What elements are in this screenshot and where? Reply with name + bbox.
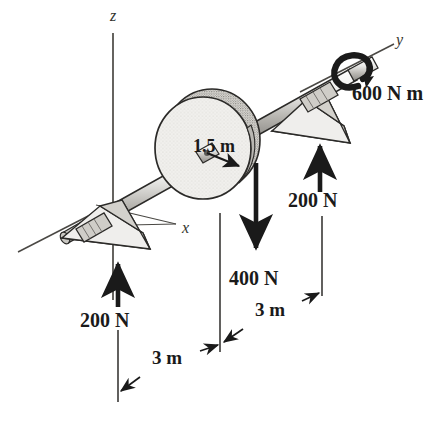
dimension-label-left-3m: 3 m [152, 348, 182, 367]
axis-label-y: y [396, 32, 403, 48]
dimension-label-radius: 1.5 m [193, 137, 235, 155]
force-label-400n: 400 N [229, 268, 278, 288]
bearing-left [62, 200, 150, 249]
figure-canvas [0, 0, 440, 425]
moment-label-600nm: 600 N m [352, 83, 423, 103]
dimension-extension-lines [118, 213, 322, 402]
force-label-right-200n: 200 N [288, 190, 337, 210]
dimension-label-right-3m: 3 m [255, 300, 285, 319]
force-label-left-200n: 200 N [80, 310, 129, 330]
axis-label-z: z [110, 8, 116, 24]
axis-label-x: x [182, 220, 189, 236]
mechanics-figure: z y x 1.5 m 600 N m 200 N 400 N 200 N 3 … [0, 0, 440, 425]
